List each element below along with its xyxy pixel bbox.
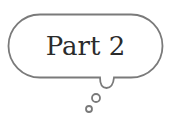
thought-dot-large: [92, 94, 100, 102]
bubble-text: Part 2: [8, 14, 163, 78]
thought-dot-small: [86, 106, 92, 112]
